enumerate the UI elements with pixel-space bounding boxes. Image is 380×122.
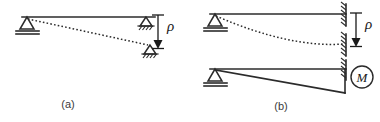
engineering-figure-canvas: ρ (a) xyxy=(0,0,380,122)
panel-a-deflected-shape xyxy=(28,19,148,45)
panel-b-moment-marker: M xyxy=(351,66,373,88)
moment-diagram-hypotenuse xyxy=(216,70,345,93)
dimension-arrowhead-down-icon xyxy=(154,40,163,49)
roller-triangle-icon xyxy=(144,45,156,54)
roller-triangle-icon xyxy=(140,17,152,26)
pin-triangle-icon xyxy=(20,17,34,29)
panel-a-right-roller-support-original xyxy=(138,17,154,30)
pin-triangle-icon xyxy=(208,14,222,26)
panel-b-rho-label: ρ xyxy=(364,16,372,32)
figure-root: ρ (a) xyxy=(0,0,380,122)
panel-a-caption: (a) xyxy=(61,98,74,110)
panel-b-upper-diagram: ρ xyxy=(204,2,372,56)
panel-a-rho-label: ρ xyxy=(166,18,174,34)
panel-b-moment-diagram xyxy=(216,69,345,93)
panel-a: ρ (a) xyxy=(16,15,174,110)
panel-b-caption: (b) xyxy=(274,100,287,112)
dimension-arrowhead-down-icon xyxy=(352,38,361,47)
panel-b-rho-dimension: ρ xyxy=(350,13,372,47)
panel-a-right-roller-support-settled xyxy=(142,45,158,58)
panel-b-moment-label: M xyxy=(356,70,369,85)
panel-a-left-pin-support xyxy=(16,17,39,34)
panel-b-lower-diagram: M xyxy=(204,58,373,93)
panel-b-deflected-shape xyxy=(216,16,344,44)
panel-b: ρ xyxy=(204,2,373,112)
panel-a-rho-dimension: ρ xyxy=(152,15,174,49)
panel-b-upper-left-pin-support xyxy=(204,14,227,31)
